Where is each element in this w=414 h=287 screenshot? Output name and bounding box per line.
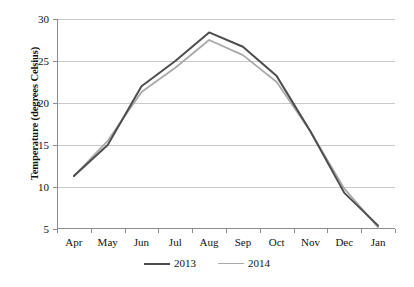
legend-item-2014[interactable]: 2014	[218, 258, 270, 269]
legend-label: 2014	[248, 258, 270, 269]
x-tick-mark	[158, 229, 159, 233]
x-tick-mark	[294, 229, 295, 233]
x-tick-label: Jul	[158, 236, 192, 248]
series-lines	[57, 19, 395, 229]
legend-line-icon	[144, 263, 170, 265]
legend-label: 2013	[174, 258, 196, 269]
y-tick-label: 15	[11, 139, 49, 151]
series-line-2014	[74, 40, 378, 227]
x-tick-mark	[260, 229, 261, 233]
x-tick-label: Aug	[192, 236, 226, 248]
x-tick-label: Nov	[294, 236, 328, 248]
x-tick-mark	[192, 229, 193, 233]
x-tick-label: Dec	[327, 236, 361, 248]
x-tick-label: May	[91, 236, 125, 248]
x-tick-mark	[57, 229, 58, 233]
legend-line-icon	[218, 263, 244, 264]
x-tick-mark	[327, 229, 328, 233]
x-tick-label: Apr	[57, 236, 91, 248]
x-tick-label: Oct	[260, 236, 294, 248]
y-tick-label: 5	[11, 223, 49, 235]
y-tick-label: 10	[11, 181, 49, 193]
line-chart: Temperature (degrees Celsius) 5101520253…	[0, 0, 414, 287]
x-tick-label: Sep	[226, 236, 260, 248]
y-tick-label: 25	[11, 55, 49, 67]
x-tick-mark	[91, 229, 92, 233]
legend-item-2013[interactable]: 2013	[144, 258, 196, 269]
x-tick-mark	[125, 229, 126, 233]
y-tick-label: 20	[11, 97, 49, 109]
series-line-2013	[74, 32, 378, 225]
x-tick-label: Jan	[361, 236, 395, 248]
x-tick-mark	[395, 229, 396, 233]
plot-area: 51015202530 AprMayJunJulAugSepOctNovDecJ…	[57, 19, 395, 229]
x-tick-mark	[361, 229, 362, 233]
y-tick-label: 30	[11, 13, 49, 25]
chart-legend: 20132014	[0, 258, 414, 269]
x-tick-mark	[226, 229, 227, 233]
x-tick-label: Jun	[125, 236, 159, 248]
